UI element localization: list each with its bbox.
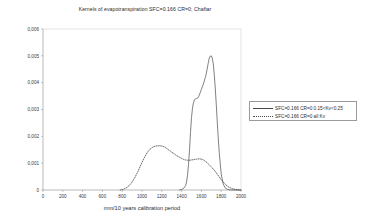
legend-label-1: SFC=0.166 CR=0 all Kv: [274, 114, 325, 119]
legend-line-dotted-icon: [252, 114, 274, 120]
x-tick-label: 0: [42, 194, 45, 199]
x-tick-label: 1200: [157, 194, 168, 199]
y-tick-label: 0,005: [28, 54, 40, 59]
y-tick-label: 0,006: [28, 27, 40, 32]
legend-label-0: SFC=0.166 CR=0 0.15<Kv<0.25: [274, 106, 343, 111]
x-tick-label: 800: [118, 194, 126, 199]
legend-line-solid-icon: [252, 106, 274, 112]
y-tick-label: 0,001: [28, 161, 40, 166]
y-tick-group: 00,0010,0020,0030,0040,0050,006: [28, 27, 44, 193]
x-tick-label: 400: [79, 194, 87, 199]
chart-container: Kernels of evapotranspiration SFC=0.166 …: [0, 0, 365, 224]
axes-group: [43, 29, 241, 190]
series-line-0: [180, 56, 241, 190]
legend-item-0: SFC=0.166 CR=0 0.15<Kv<0.25: [252, 105, 354, 113]
x-tick-label: 1000: [137, 194, 148, 199]
y-tick-label: 0,004: [28, 80, 40, 85]
x-tick-group: 0200400600800100012001400160018002000: [42, 190, 247, 199]
chart-legend: SFC=0.166 CR=0 0.15<Kv<0.25 SFC=0.166 CR…: [249, 101, 357, 121]
x-axis-title: mm/10 years calibration period: [43, 205, 241, 211]
x-tick-label: 1800: [216, 194, 227, 199]
x-tick-label: 1400: [176, 194, 187, 199]
y-tick-label: 0: [36, 188, 39, 193]
x-tick-label: 2000: [236, 194, 247, 199]
x-tick-label: 600: [99, 194, 107, 199]
y-tick-label: 0,003: [28, 107, 40, 112]
legend-item-1: SFC=0.166 CR=0 all Kv: [252, 113, 354, 121]
data-series-group: [120, 56, 241, 190]
x-tick-label: 1600: [196, 194, 207, 199]
y-tick-label: 0,002: [28, 134, 40, 139]
x-tick-label: 200: [59, 194, 67, 199]
